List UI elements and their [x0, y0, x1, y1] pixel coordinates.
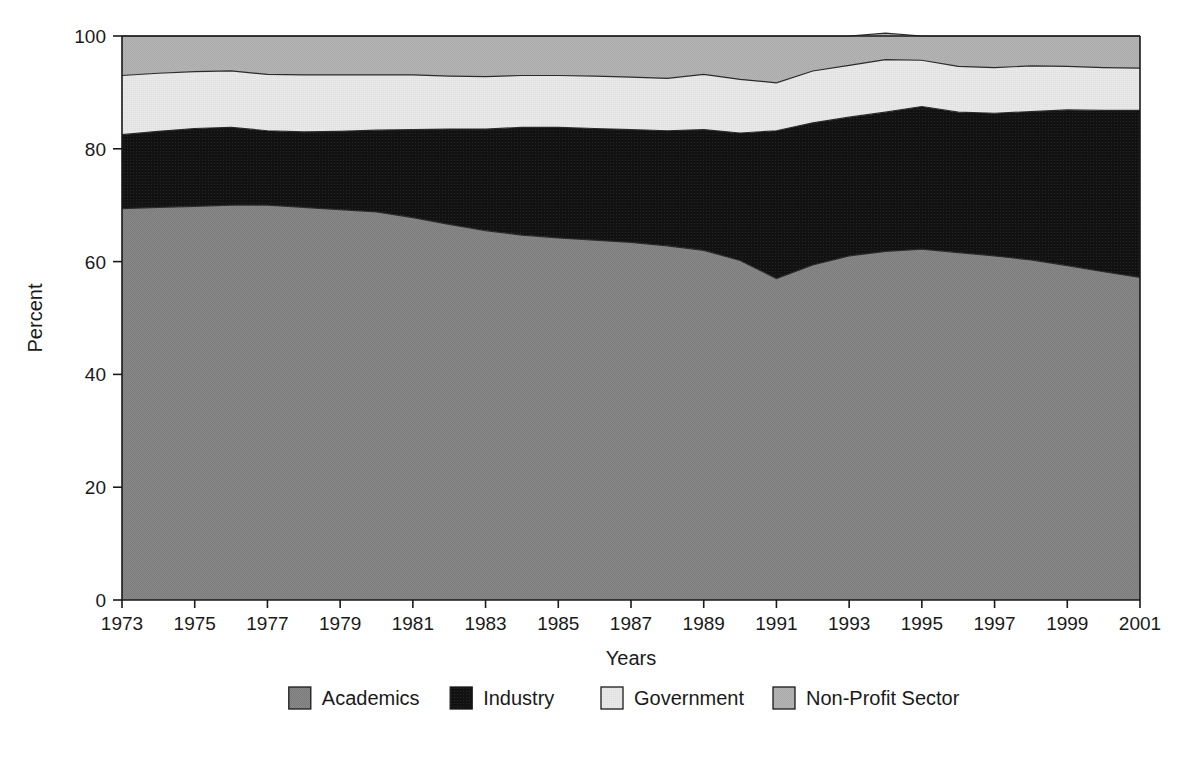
x-tick-label: 1975 — [174, 613, 216, 634]
x-tick-label: 1983 — [464, 613, 506, 634]
legend-item-academics[interactable]: Academics — [289, 687, 420, 709]
x-axis-title: Years — [606, 647, 656, 669]
legend-label: Government — [634, 687, 744, 709]
x-tick-label: 1977 — [246, 613, 288, 634]
x-tick-label: 1979 — [319, 613, 361, 634]
area-bands — [122, 33, 1140, 600]
x-tick-label: 1985 — [537, 613, 579, 634]
chart-figure: 1973197519771979198119831985198719891991… — [0, 0, 1195, 762]
x-axis-ticks: 1973197519771979198119831985198719891991… — [101, 600, 1161, 634]
y-tick-label: 80 — [85, 139, 106, 160]
legend-label: Non-Profit Sector — [806, 687, 960, 709]
legend-swatch — [773, 687, 795, 709]
x-tick-label: 2001 — [1119, 613, 1161, 634]
x-tick-label: 1995 — [901, 613, 943, 634]
stacked-area-chart: 1973197519771979198119831985198719891991… — [0, 0, 1195, 762]
x-tick-label: 1973 — [101, 613, 143, 634]
legend-swatch — [450, 687, 472, 709]
legend-label: Industry — [483, 687, 554, 709]
x-tick-label: 1997 — [973, 613, 1015, 634]
y-tick-label: 100 — [74, 26, 106, 47]
x-tick-label: 1987 — [610, 613, 652, 634]
chart-legend: AcademicsIndustryGovernmentNon-Profit Se… — [289, 687, 960, 709]
y-tick-label: 0 — [95, 590, 106, 611]
area-band-academics — [122, 205, 1140, 600]
legend-label: Academics — [322, 687, 420, 709]
y-tick-label: 40 — [85, 364, 106, 385]
legend-item-industry[interactable]: Industry — [450, 687, 554, 709]
y-axis-ticks: 020406080100 — [74, 26, 122, 611]
y-tick-label: 60 — [85, 252, 106, 273]
x-tick-label: 1993 — [828, 613, 870, 634]
legend-item-government[interactable]: Government — [601, 687, 744, 709]
x-tick-label: 1981 — [392, 613, 434, 634]
x-tick-label: 1999 — [1046, 613, 1088, 634]
legend-swatch — [289, 687, 311, 709]
x-tick-label: 1991 — [755, 613, 797, 634]
x-tick-label: 1989 — [683, 613, 725, 634]
legend-item-non-profit-sector[interactable]: Non-Profit Sector — [773, 687, 960, 709]
legend-swatch — [601, 687, 623, 709]
y-axis-title: Percent — [24, 283, 46, 352]
y-tick-label: 20 — [85, 477, 106, 498]
